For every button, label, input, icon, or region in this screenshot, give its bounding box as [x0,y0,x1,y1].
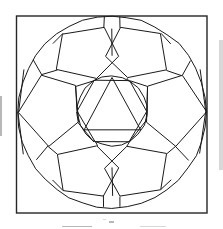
soccer-ball-diagram [0,0,223,229]
seam-tl-rim-b [104,17,105,28]
scan-speck [140,226,166,227]
scan-speck [103,219,106,220]
scan-speck [219,40,223,170]
figure-canvas [0,0,223,229]
scan-speck [62,226,92,227]
scan-speck [109,221,114,223]
scan-speck [0,96,2,136]
seam-bottom-center [112,167,113,195]
